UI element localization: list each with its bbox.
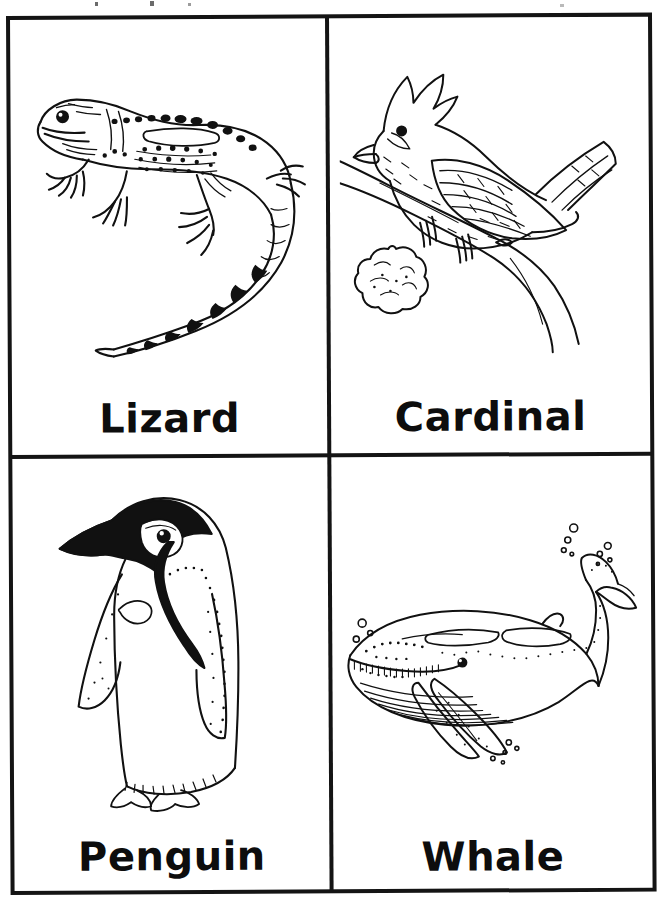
card-cardinal[interactable]: Cardinal — [329, 17, 650, 454]
scan-artifact-top-edge — [0, 0, 662, 14]
card-penguin[interactable]: Penguin — [12, 457, 329, 895]
flashcard-sheet: Lizard — [0, 0, 662, 901]
cardinal-illustration — [329, 17, 650, 398]
whale-illustration — [331, 456, 652, 838]
lizard-illustration — [10, 18, 327, 399]
card-label-penguin: Penguin — [14, 835, 329, 895]
card-grid: Lizard — [6, 13, 657, 895]
card-label-whale: Whale — [333, 836, 652, 894]
card-label-cardinal: Cardinal — [331, 396, 650, 454]
card-label-lizard: Lizard — [12, 397, 327, 455]
card-lizard[interactable]: Lizard — [10, 18, 327, 455]
penguin-illustration — [12, 457, 329, 837]
card-whale[interactable]: Whale — [331, 456, 652, 894]
